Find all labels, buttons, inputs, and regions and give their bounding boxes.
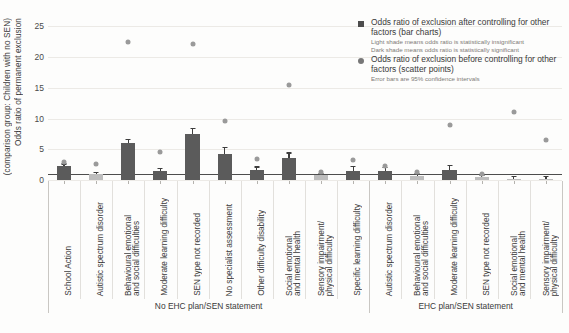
error-bar-cap	[222, 147, 227, 148]
legend-subnote: Light shade means odds ratio is statisti…	[371, 38, 566, 46]
x-tick-mark	[289, 181, 290, 184]
x-tick-label-line: Autistic spectrum disorder	[385, 202, 394, 296]
legend-square-icon	[358, 21, 364, 27]
scatter-point	[415, 170, 420, 175]
x-tick-mark	[385, 181, 386, 184]
category-separator	[305, 181, 306, 299]
error-bar-cap	[158, 168, 163, 169]
x-tick-mark	[482, 181, 483, 184]
category-separator	[337, 181, 338, 299]
error-bar-cap	[254, 166, 259, 167]
x-tick-label-line: Moderate learning difficulty	[160, 198, 169, 296]
error-bar-cap	[126, 139, 131, 140]
x-tick-label-line: Moderate learning difficulty	[450, 198, 459, 296]
x-tick-label: Moderate learning difficulty	[434, 184, 466, 296]
legend-subnote: Dark shade means odds ratio is statistic…	[371, 46, 566, 54]
x-tick-label: Behavioural emotionaland social difficul…	[112, 184, 144, 296]
scatter-point	[511, 110, 516, 115]
bar	[282, 158, 296, 180]
legend-circle-icon	[358, 58, 364, 64]
x-tick-mark	[514, 181, 515, 184]
scatter-point	[222, 118, 227, 123]
x-tick-mark	[450, 181, 451, 184]
gridline	[48, 88, 562, 89]
category-separator	[177, 181, 178, 299]
x-tick-label: Social emotionaland mental health	[273, 184, 305, 296]
x-tick-label: Other difficulty disability	[241, 184, 273, 296]
bar	[410, 176, 424, 180]
x-tick-label-line: SEN type not recorded	[482, 213, 491, 296]
legend-label: Odds ratio of exclusion before controlli…	[371, 55, 566, 74]
scatter-point	[94, 162, 99, 167]
y-tick-label: 20	[35, 52, 44, 62]
scatter-point	[479, 171, 484, 176]
x-tick-mark	[160, 181, 161, 184]
y-axis-label-line2: (comparison group: Children with no SEN)	[3, 18, 12, 175]
y-tick-label: 15	[35, 83, 44, 93]
bar	[346, 171, 360, 180]
x-tick-label-line: and mental health	[293, 231, 302, 296]
error-bar-cap	[190, 128, 195, 129]
error-bar-cap	[447, 165, 452, 166]
category-separator	[80, 181, 81, 299]
category-separator	[401, 181, 402, 299]
bar	[89, 174, 103, 180]
y-axis-label: Odds ratio of permanent exclusion (compa…	[2, 18, 28, 178]
error-bar-cap	[543, 176, 548, 177]
y-tick-label: 25	[35, 21, 44, 31]
category-separator	[530, 181, 531, 299]
bar	[185, 134, 199, 180]
group-label: EHC plan/SEN statement	[418, 301, 513, 311]
chart-legend: Odds ratio of exclusion after controllin…	[358, 18, 566, 85]
x-tick-label: No specialist assessment	[209, 184, 241, 296]
legend-item: Odds ratio of exclusion after controllin…	[358, 18, 566, 53]
y-tick-label: 5	[39, 144, 44, 154]
group-boundary	[48, 181, 49, 313]
x-tick-label-line: physical difficulty	[550, 235, 559, 296]
scatter-point	[158, 149, 163, 154]
bar	[250, 170, 264, 180]
x-tick-mark	[546, 181, 547, 184]
bar	[314, 175, 328, 180]
legend-item: Odds ratio of exclusion before controlli…	[358, 55, 566, 82]
category-separator	[209, 181, 210, 299]
x-tick-label-line: physical difficulty	[325, 235, 334, 296]
bar	[218, 154, 232, 180]
x-tick-label: Sensory impairment/physical difficulty	[305, 184, 337, 296]
bar	[378, 171, 392, 180]
x-tick-mark	[96, 181, 97, 184]
scatter-point	[126, 40, 131, 45]
x-tick-label: Sensory impairment/physical difficulty	[530, 184, 562, 296]
x-tick-mark	[321, 181, 322, 184]
x-tick-mark	[193, 181, 194, 184]
scatter-point	[383, 163, 388, 168]
category-separator	[273, 181, 274, 299]
category-separator	[144, 181, 145, 299]
category-separator	[466, 181, 467, 299]
bar	[57, 166, 71, 180]
scatter-point	[286, 82, 291, 87]
category-separator	[241, 181, 242, 299]
bar	[442, 170, 456, 180]
x-tick-label: SEN type not recorded	[466, 184, 498, 296]
bar	[153, 171, 167, 180]
legend-label: Odds ratio of exclusion after controllin…	[371, 18, 566, 37]
chart-figure: Odds ratio of permanent exclusion (compa…	[0, 0, 569, 333]
x-tick-label-line: SEN type not recorded	[193, 213, 202, 296]
legend-subnote: Error bars are 95% confidence intervals	[371, 75, 566, 83]
scatter-point	[447, 122, 452, 127]
scatter-point	[254, 157, 259, 162]
x-tick-label-line: No specialist assessment	[225, 204, 234, 296]
scatter-point	[190, 41, 195, 46]
bar	[475, 177, 489, 180]
x-tick-mark	[417, 181, 418, 184]
x-tick-label: Specific learning difficulty	[337, 184, 369, 296]
group-label: No EHC plan/SEN statement	[155, 301, 263, 311]
category-separator	[434, 181, 435, 299]
x-tick-label-line: and mental health	[518, 231, 527, 296]
x-tick-label-line: Autistic spectrum disorder	[96, 202, 105, 296]
x-tick-mark	[64, 181, 65, 184]
x-tick-label: School Action	[48, 184, 80, 296]
x-tick-label-line: and social difficulties	[421, 221, 430, 296]
error-bar-cap	[351, 166, 356, 167]
